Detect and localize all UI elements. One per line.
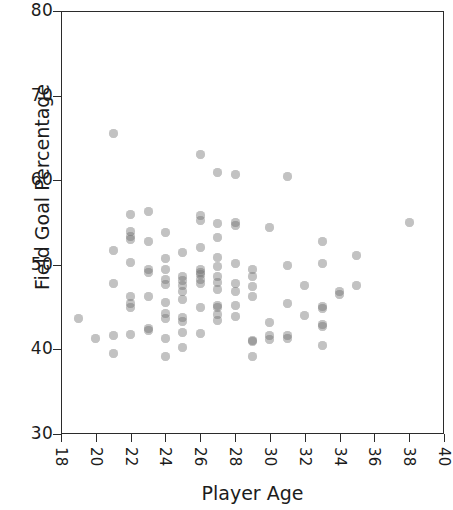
data-point [248,272,257,281]
data-point [231,221,240,230]
y-tick-mark [53,96,61,97]
data-point [300,311,309,320]
data-point [144,292,153,301]
data-point [318,237,327,246]
data-point [196,303,205,312]
data-point [318,304,327,313]
x-tick-label: 32 [296,447,314,465]
y-tick-label: 80 [8,2,53,19]
data-point [318,341,327,350]
data-point [283,299,292,308]
y-tick-mark [53,180,61,181]
data-point [161,298,170,307]
data-point [213,253,222,262]
data-point [265,318,274,327]
y-tick-mark [53,11,61,12]
data-point [213,262,222,271]
data-point [196,150,205,159]
data-point [126,258,135,267]
data-point [352,251,361,260]
data-point [231,287,240,296]
data-point [231,170,240,179]
data-point [144,268,153,277]
data-point [300,281,309,290]
data-point [213,168,222,177]
data-point [248,352,257,361]
data-point [196,216,205,225]
data-point [283,261,292,270]
data-point [196,329,205,338]
x-tick-label: 26 [191,447,209,465]
x-tick-mark [131,434,132,442]
y-tick-label: 70 [8,87,53,104]
data-point [126,210,135,219]
y-tick-label: 50 [8,256,53,273]
data-point [248,282,257,291]
x-tick-label: 22 [122,447,140,465]
data-point [283,172,292,181]
data-point [109,129,118,138]
data-point [196,279,205,288]
x-tick-label: 36 [365,447,383,465]
x-tick-label: 34 [331,447,349,465]
x-tick-mark [340,434,341,442]
data-point [178,328,187,337]
x-tick-label: 40 [435,447,453,465]
data-point [318,259,327,268]
y-tick-mark [53,349,61,350]
data-point [248,337,257,346]
data-point [109,279,118,288]
data-point [178,295,187,304]
data-point [283,334,292,343]
data-point [161,280,170,289]
data-point [318,322,327,331]
data-point [109,331,118,340]
data-point [335,290,344,299]
x-tick-mark [200,434,201,442]
data-point [178,343,187,352]
x-tick-mark [61,434,62,442]
y-tick-label: 60 [8,171,53,188]
x-tick-label: 30 [261,447,279,465]
x-tick-label: 20 [87,447,105,465]
data-point [231,259,240,268]
x-tick-label: 28 [226,447,244,465]
x-tick-mark [409,434,410,442]
data-point [196,243,205,252]
data-point [161,314,170,323]
data-point [91,334,100,343]
data-point [213,219,222,228]
y-tick-label: 40 [8,340,53,357]
x-tick-mark [96,434,97,442]
data-point [213,233,222,242]
x-tick-label: 24 [156,447,174,465]
data-point [231,301,240,310]
x-tick-mark [444,434,445,442]
data-point [213,285,222,294]
data-point [126,235,135,244]
y-tick-mark [53,434,61,435]
data-point [161,334,170,343]
x-tick-mark [374,434,375,442]
x-tick-mark [305,434,306,442]
data-point [144,237,153,246]
data-point [352,281,361,290]
data-point [178,248,187,257]
plot-area [61,11,444,434]
data-point [213,316,222,325]
data-point [109,349,118,358]
data-point [126,330,135,339]
y-tick-mark [53,265,61,266]
y-tick-label: 30 [8,425,53,442]
data-point [109,246,118,255]
data-point [231,312,240,321]
data-point [74,314,83,323]
x-axis-title: Player Age [61,482,444,504]
data-point [144,326,153,335]
data-point [126,303,135,312]
data-point [178,317,187,326]
data-point [144,207,153,216]
x-tick-mark [165,434,166,442]
data-point [248,292,257,301]
